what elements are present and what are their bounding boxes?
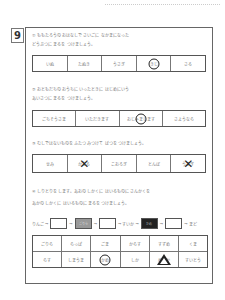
grid-row: らす しまうま かめ しか めだか すいとう xyxy=(33,252,207,267)
grid-cell[interactable]: すずめ xyxy=(150,236,179,251)
q4-word-grid: ごりら らっぱ ごま からす すずめ くま らす しまうま かめ しか めだか … xyxy=(32,235,208,268)
x-mark-icon: ✕ xyxy=(79,158,89,170)
arrow-right-icon: → xyxy=(118,221,121,226)
worksheet-frame: ① ももたろうの おはなしで さいごに なかまになった どうぶつに まるを つけ… xyxy=(25,27,213,284)
dark-square: かめ xyxy=(141,218,158,229)
arrow-right-icon: → xyxy=(184,221,187,226)
q3-option[interactable]: せみ xyxy=(33,155,68,172)
gray-square: ごりら xyxy=(75,218,92,229)
q2-option-circled[interactable]: おじゃまします xyxy=(120,111,163,126)
q1-option[interactable]: うさぎ xyxy=(102,56,137,71)
shiritori-chain: りんご → → ごりら → → すいか → かめ → → まど xyxy=(32,218,197,229)
q2-line1: ② おともだちの おうちに いったときに はじめにいう xyxy=(32,86,129,94)
q2-line2: あいさつに まるを つけましょう。 xyxy=(32,95,95,103)
arrow-right-icon: → xyxy=(135,221,138,226)
triangle-mark-icon xyxy=(157,253,171,264)
q1-line2: どうぶつに まるを つけましょう。 xyxy=(32,41,95,49)
q3-line1: ③ むしではないものを ふたつ みつけて ばつを つけましょう。 xyxy=(32,140,146,148)
chain-end: まど xyxy=(189,221,197,227)
arrow-right-icon: → xyxy=(69,221,72,226)
red-square-blank[interactable] xyxy=(165,218,182,229)
circle-mark-icon xyxy=(100,254,111,265)
q1-line1: ① ももたろうの おはなしで さいごに なかまになった xyxy=(32,32,129,40)
q1-option[interactable]: たぬき xyxy=(68,56,103,71)
q3-option[interactable]: こおろぎ xyxy=(102,155,137,172)
q2-option[interactable]: いただきます xyxy=(76,111,119,126)
q3-option-crossed[interactable]: かえる✕ xyxy=(68,155,103,172)
q3-options: せみ かえる✕ こおろぎ とんぼ うさぎ✕ xyxy=(32,154,206,173)
arrow-right-icon: → xyxy=(45,221,48,226)
blue-square-blank[interactable] xyxy=(50,218,67,229)
grid-cell[interactable]: すいとう xyxy=(179,252,207,267)
q3-option-crossed[interactable]: うさぎ✕ xyxy=(171,155,205,172)
circle-mark-icon xyxy=(135,113,146,124)
page-number-badge: 9 xyxy=(11,28,24,43)
x-mark-icon: ✕ xyxy=(183,158,193,170)
grid-cell[interactable]: ごま xyxy=(91,236,120,251)
grid-cell-triangled[interactable]: めだか xyxy=(150,252,179,267)
q2-option[interactable]: さようなら xyxy=(163,111,205,126)
q3-option[interactable]: とんぼ xyxy=(137,155,172,172)
grid-cell[interactable]: らす xyxy=(33,252,62,267)
grid-row: ごりら らっぱ ごま からす すずめ くま xyxy=(33,236,207,252)
circle-mark-icon xyxy=(148,58,159,69)
grid-cell[interactable]: しまうま xyxy=(62,252,91,267)
q1-options: いぬ たぬき うさぎ きじ さる xyxy=(32,55,206,72)
grid-cell[interactable]: ごりら xyxy=(33,236,62,251)
arrow-right-icon: → xyxy=(94,221,97,226)
chain-middle: すいか xyxy=(122,221,134,227)
grid-cell-circled[interactable]: かめ xyxy=(91,252,120,267)
q1-option-circled[interactable]: きじ xyxy=(137,56,172,71)
grid-cell[interactable]: からす xyxy=(121,236,150,251)
q1-option[interactable]: さる xyxy=(171,56,205,71)
arrow-right-icon: → xyxy=(160,221,163,226)
top-dotted-line xyxy=(105,4,220,5)
q4-line1: ④ しりとりを します。あおの しかくに はいるものに さんかくを xyxy=(32,188,150,196)
q2-options: ごちそうさま いただきます おじゃまします さようなら xyxy=(32,110,206,127)
chain-start: りんご xyxy=(32,221,44,227)
grid-cell[interactable]: しか xyxy=(121,252,150,267)
grid-cell[interactable]: くま xyxy=(179,236,207,251)
q2-option[interactable]: ごちそうさま xyxy=(33,111,76,126)
grid-cell[interactable]: らっぱ xyxy=(62,236,91,251)
q1-option[interactable]: いぬ xyxy=(33,56,68,71)
q4-line2: あかの しかくに はいるものに まるを つけましょう。 xyxy=(32,200,129,208)
blank-square[interactable] xyxy=(99,218,116,229)
